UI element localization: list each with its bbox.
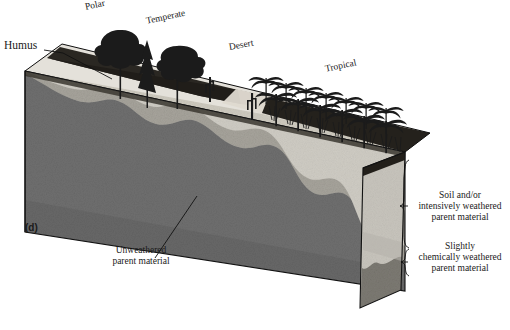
label-humus: Humus [4,39,37,52]
label-slightly-weathered-zone: Slightly chemically weathered parent mat… [411,241,509,274]
slightly-zone-line-2: chemically weathered [411,252,509,263]
label-unweathered-parent-material: Unweathered parent material [86,245,196,267]
panel-label: (d) [25,222,38,234]
unweathered-line-1: Unweathered [86,245,196,256]
slightly-zone-line-3: parent material [411,263,509,274]
label-soil-zone: Soil and/or intensively weathered parent… [411,190,509,223]
soil-zone-line-2: intensively weathered [411,201,509,212]
unweathered-line-2: parent material [86,256,196,267]
end-cap-group [355,145,415,320]
soil-zone-line-1: Soil and/or [411,190,509,201]
block-diagram-svg [0,0,510,330]
slightly-zone-line-1: Slightly [411,241,509,252]
soil-zone-line-3: parent material [411,212,509,223]
figure-canvas: Polar Temperate Desert Tropical Humus Un… [0,0,510,330]
